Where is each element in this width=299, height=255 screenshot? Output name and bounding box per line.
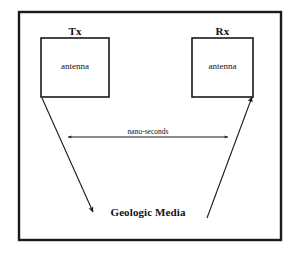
- transmit-ray: [42, 98, 93, 212]
- timing-arrow-label: nano-seconds: [68, 128, 228, 136]
- figure-canvas: Tx Rx antenna antenna nano-seconds Geolo…: [0, 0, 299, 255]
- geologic-media-label: Geologic Media: [103, 207, 193, 218]
- rx-antenna-label: antenna: [192, 62, 253, 71]
- rx-label: Rx: [192, 26, 253, 37]
- receive-ray: [207, 97, 252, 218]
- tx-antenna-label: antenna: [41, 62, 109, 71]
- tx-label: Tx: [41, 26, 109, 37]
